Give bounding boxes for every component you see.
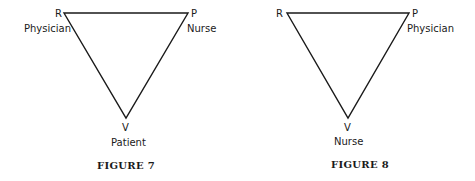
vertex-v-label: V bbox=[344, 122, 351, 133]
figure-caption: FIGURE 8 bbox=[331, 159, 389, 170]
vertex-r-label: R bbox=[55, 8, 62, 19]
vertex-v-label: V bbox=[122, 122, 129, 133]
vertex-p-label: P bbox=[191, 8, 197, 19]
triangle-figure-7 bbox=[64, 13, 188, 118]
vertex-r-label: R bbox=[276, 8, 283, 19]
figure-8: R P Physician V Nurse FIGURE 8 bbox=[276, 8, 454, 170]
vertex-v-role: Nurse bbox=[334, 136, 363, 147]
vertex-p-role: Nurse bbox=[187, 23, 216, 34]
figures-canvas: R Physician P Nurse V Patient FIGURE 7 R… bbox=[0, 0, 475, 181]
vertex-v-role: Patient bbox=[111, 137, 146, 148]
triangle-figure-8 bbox=[287, 13, 409, 118]
vertex-r-role: Physician bbox=[24, 23, 71, 34]
figure-caption: FIGURE 7 bbox=[97, 160, 155, 171]
vertex-p-role: Physician bbox=[407, 23, 454, 34]
figure-7: R Physician P Nurse V Patient FIGURE 7 bbox=[24, 8, 216, 171]
vertex-p-label: P bbox=[412, 8, 418, 19]
